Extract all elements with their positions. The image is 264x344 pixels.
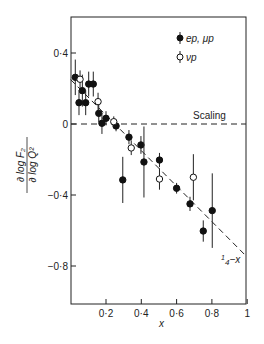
data-point (120, 177, 126, 183)
data-point (96, 110, 102, 116)
data-point (126, 134, 132, 140)
data-point (209, 207, 215, 213)
y-tick-label: 0·4 (54, 48, 69, 59)
y-axis-label-numerator: ∂ log F₂ (15, 148, 26, 182)
x-tick-label: 1 (244, 308, 250, 319)
data-point (138, 142, 144, 148)
data-point (173, 185, 179, 191)
data-point (103, 115, 109, 121)
data-point (79, 87, 85, 93)
x-tick-label: 0·2 (99, 308, 114, 319)
series-nup (77, 70, 197, 200)
y-tick-label: −0·8 (48, 261, 69, 272)
data-point (83, 100, 89, 106)
data-point (95, 98, 101, 104)
legend-marker-nup (177, 54, 183, 60)
y-tick-label: −0·4 (48, 190, 69, 201)
chart: 0·40−0·4−0·8 0·20·40·60·81 Scaling 14−x … (0, 0, 264, 344)
data-point (128, 145, 134, 151)
data-point (141, 159, 147, 165)
data-point (77, 76, 83, 82)
x-tick-label: 0·4 (134, 308, 149, 319)
data-point (156, 176, 162, 182)
quarter-label-post: −x (229, 254, 241, 265)
data-point (200, 228, 206, 234)
y-axis-label-denominator: ∂ log Q² (27, 147, 38, 183)
data-point (76, 100, 82, 106)
x-axis-ticks: 0·20·40·60·81 (99, 299, 251, 319)
reference-lines: Scaling 14−x (71, 80, 246, 267)
legend-marker-ep-mup (177, 35, 183, 41)
scaling-label: Scaling (193, 110, 226, 121)
legend-label-nup: νp (186, 52, 197, 63)
y-axis-label: ∂ log F₂ ∂ log Q² (15, 137, 38, 193)
data-point (190, 174, 196, 180)
data-point (90, 81, 96, 87)
data-point (156, 157, 162, 163)
data-point (187, 201, 193, 207)
data-point (111, 118, 117, 124)
legend: ep, μp νp (177, 32, 214, 63)
data-series (72, 60, 215, 248)
legend-label-ep-mup: ep, μp (186, 33, 214, 44)
quarter-minus-x-label: 14−x (221, 254, 241, 267)
y-tick-label: 0 (62, 119, 68, 130)
x-axis-label: x (158, 318, 165, 329)
series-ep-mup (72, 60, 215, 248)
x-tick-label: 0·6 (169, 308, 184, 319)
x-tick-label: 0·8 (205, 308, 220, 319)
quarter-minus-x-line (71, 80, 246, 256)
